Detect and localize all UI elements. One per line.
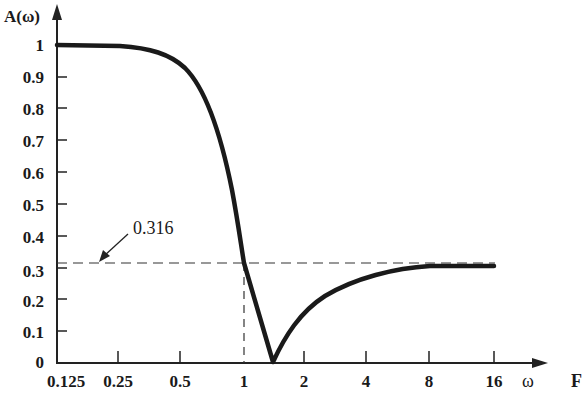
- x-axis-title: ω: [522, 372, 534, 390]
- x-tick-label: 0.25: [103, 373, 133, 390]
- y-tick-label: 0.4: [0, 229, 44, 246]
- y-tick-label: 0.8: [0, 101, 44, 118]
- x-tick-label: 0.125: [47, 373, 85, 390]
- x-tick-label: 1: [240, 373, 249, 390]
- figure-label: F: [571, 372, 582, 390]
- x-tick-label: 4: [362, 373, 371, 390]
- y-axis-title: A(ω): [4, 8, 40, 25]
- response-curve: [57, 45, 494, 362]
- x-axis-arrow-icon: [532, 358, 548, 368]
- chart-canvas: [0, 0, 586, 399]
- y-tick-label: 1: [0, 37, 44, 54]
- y-ticks: [57, 77, 67, 331]
- y-tick-label: 0.5: [0, 197, 44, 214]
- y-tick-label: 0: [0, 354, 44, 371]
- x-tick-label: 16: [486, 373, 503, 390]
- annotation-arrow: [104, 234, 128, 256]
- x-tick-label: 0.5: [169, 373, 190, 390]
- annotation-label-0316: 0.316: [133, 219, 174, 237]
- x-tick-label: 8: [425, 373, 434, 390]
- y-tick-label: 0.2: [0, 293, 44, 310]
- y-tick-label: 0.7: [0, 133, 44, 150]
- y-axis-arrow-icon: [52, 4, 62, 20]
- y-tick-label: 0.6: [0, 165, 44, 182]
- x-ticks: [118, 351, 494, 363]
- y-tick-label: 0.9: [0, 69, 44, 86]
- y-tick-label: 0.1: [0, 324, 44, 341]
- x-tick-label: 2: [300, 373, 309, 390]
- y-tick-label: 0.3: [0, 263, 44, 280]
